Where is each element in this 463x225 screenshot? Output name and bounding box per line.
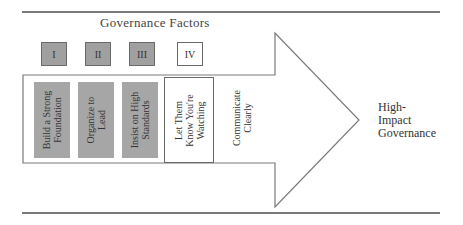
- column-text: Build a Strong Foundation: [41, 91, 63, 149]
- column-organize-to-lead: Organize to Lead: [78, 82, 114, 158]
- column-text: Insist on High Standards: [129, 92, 151, 149]
- column-text: Let Them Know You're Watching: [173, 94, 206, 146]
- outcome-label: High- Impact Governance: [378, 101, 436, 140]
- column-insist-high-standards: Insist on High Standards: [122, 82, 158, 158]
- bottom-rule: [22, 212, 440, 214]
- column-communicate-clearly: Communicate Clearly: [222, 80, 262, 156]
- column-let-them-know: Let Them Know You're Watching: [164, 77, 214, 163]
- column-text: Organize to Lead: [85, 97, 107, 144]
- column-text: Communicate Clearly: [231, 90, 253, 146]
- column-build-foundation: Build a Strong Foundation: [34, 82, 70, 158]
